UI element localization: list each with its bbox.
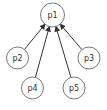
node-p5: p5 [63, 77, 85, 99]
node-label: p4 [27, 84, 37, 93]
node-p1: p1 [41, 3, 65, 27]
node-label: p2 [12, 54, 22, 63]
edge-p3-p1 [60, 24, 82, 49]
edges [24, 24, 81, 77]
node-label: p5 [69, 84, 79, 93]
edge-p2-p1 [24, 24, 44, 49]
node-label: p3 [84, 54, 94, 63]
tree-diagram: p1p2p3p4p5 [0, 0, 107, 110]
node-p2: p2 [7, 47, 29, 69]
node-p4: p4 [22, 77, 44, 99]
node-p3: p3 [78, 47, 100, 69]
node-label: p1 [47, 11, 57, 20]
nodes: p1p2p3p4p5 [7, 3, 101, 99]
